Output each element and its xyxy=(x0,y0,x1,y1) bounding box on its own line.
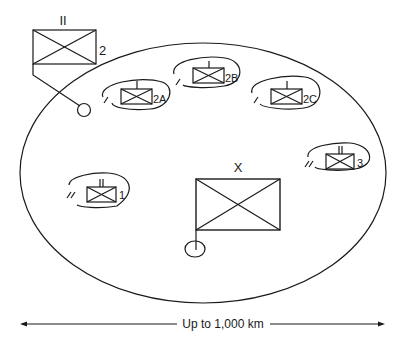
unit-label: 2A xyxy=(153,93,167,105)
unit-label: 3 xyxy=(357,157,363,169)
hq-location-circle xyxy=(185,241,205,257)
scale-label: Up to 1,000 km xyxy=(182,317,263,331)
unit-2b: 2B xyxy=(174,57,240,87)
scale-indicator: Up to 1,000 km xyxy=(20,317,385,331)
deployment-diagram: II 2 2A 2B 2C xyxy=(0,0,401,349)
unit-2a: 2A xyxy=(102,80,169,110)
unit-3: 3 xyxy=(305,143,370,170)
unit-2c: 2C xyxy=(252,76,320,109)
echelon-marker: II xyxy=(59,13,66,28)
unit-label: 2B xyxy=(225,72,238,84)
unit-label: 2C xyxy=(303,93,317,105)
hq-location-circle xyxy=(78,104,91,117)
echelon-marker: X xyxy=(234,160,243,175)
unit-label: 1 xyxy=(119,189,125,201)
unit-x-hq: X xyxy=(185,160,280,257)
unit-1: 1 xyxy=(67,173,129,208)
area-boundary-ellipse xyxy=(20,43,386,303)
unit-label: 2 xyxy=(99,43,106,58)
unit-2-hq: II 2 xyxy=(33,13,106,117)
